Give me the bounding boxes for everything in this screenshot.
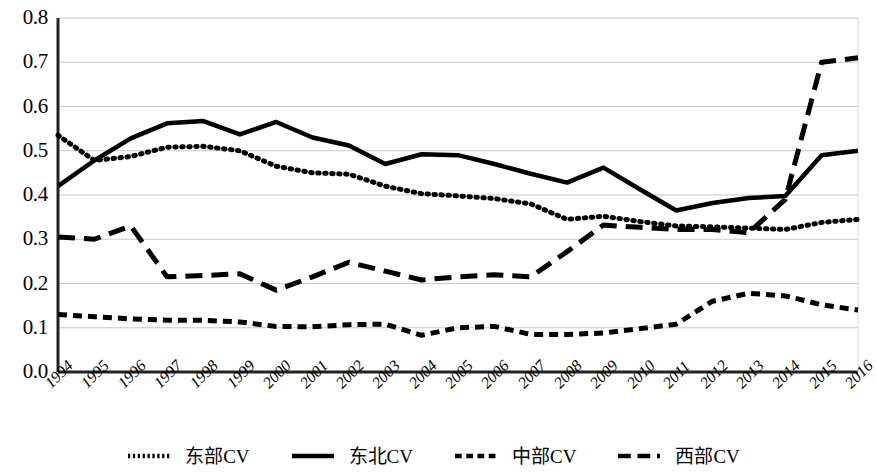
chart-legend: 东部CV东北CV中部CV西部CV (0, 440, 860, 472)
y-tick-label: 0.1 (2, 317, 48, 338)
legend-item-3[interactable]: 中部CV (447, 447, 576, 466)
y-tick-label: 0.3 (2, 228, 48, 249)
data-series-group (58, 58, 858, 335)
legend-item-2[interactable]: 东北CV (284, 447, 413, 466)
legend-label: 东北CV (349, 447, 413, 466)
y-tick-label: 0.6 (2, 96, 48, 117)
legend-label: 东部CV (185, 447, 249, 466)
gridlines (58, 18, 858, 328)
y-tick-label: 0.4 (2, 184, 48, 205)
y-tick-label: 0.8 (2, 7, 48, 28)
legend-item-1[interactable]: 东部CV (120, 447, 249, 466)
legend-swatch-solid (284, 453, 342, 459)
legend-label: 中部CV (512, 447, 576, 466)
legend-swatch-long-dash (610, 453, 668, 459)
y-tick-label: 0.7 (2, 51, 48, 72)
y-tick-label: 0.2 (2, 273, 48, 294)
legend-item-4[interactable]: 西部CV (610, 447, 739, 466)
legend-label: 西部CV (675, 447, 739, 466)
legend-swatch-dotted (120, 453, 178, 459)
y-tick-label: 0.5 (2, 140, 48, 161)
series-line-3 (58, 293, 858, 335)
series-line-1 (58, 135, 858, 229)
legend-swatch-short-dash (447, 453, 505, 459)
series-line-4 (58, 58, 858, 290)
